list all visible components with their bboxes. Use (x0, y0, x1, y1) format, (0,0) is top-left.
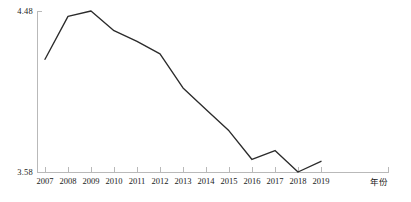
data-series-line (45, 11, 321, 172)
series-layer (0, 0, 411, 202)
line-chart: 4.48 3.58 2007 2008 2009 2010 2011 2012 … (0, 0, 411, 202)
